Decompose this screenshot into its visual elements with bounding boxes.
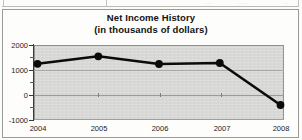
sliver-divider (106, 0, 107, 7)
line-series (34, 45, 284, 120)
x-tick-mark (221, 93, 222, 97)
data-point-2004 (34, 60, 42, 68)
y-tick-label: 2000 (0, 41, 28, 50)
sliver-rule (2, 6, 298, 7)
plot-area (34, 45, 284, 120)
y-tick-label: -1000 (0, 116, 28, 125)
chart-subtitle: (in thousands of dollars) (0, 24, 302, 35)
data-point-2005 (94, 52, 102, 60)
x-tick-mark (98, 93, 99, 97)
figure-root: ...... ........ ..... Net Income History… (0, 0, 302, 140)
x-tick-label-2008: 2008 (273, 124, 290, 133)
x-tick-label-2007: 2007 (214, 124, 231, 133)
data-point-2008 (277, 101, 285, 109)
y-tick-label: 1000 (0, 66, 28, 75)
data-point-2006 (155, 60, 163, 68)
y-tick--1000 (29, 120, 34, 121)
sliver-divider (298, 0, 299, 7)
sliver-text-fragment: ........ (238, 0, 249, 5)
x-tick-label-2006: 2006 (152, 124, 169, 133)
x-tick-mark (160, 93, 161, 97)
data-point-2007 (216, 59, 224, 67)
sliver-text-fragment: ..... (283, 0, 290, 5)
chart-title: Net Income History (0, 12, 302, 23)
y-axis-labels: 2000 1000 0 -1000 (0, 0, 28, 140)
x-tick-label-2005: 2005 (91, 124, 108, 133)
y-tick-label: 0 (0, 91, 28, 100)
sliver-text-fragment: ...... (205, 0, 213, 5)
page-sliver-above: ...... ........ ..... (0, 0, 302, 9)
x-tick-label-2004: 2004 (30, 124, 47, 133)
